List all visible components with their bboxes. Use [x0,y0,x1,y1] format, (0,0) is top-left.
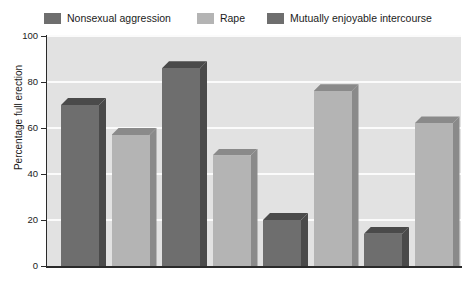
bar-series [47,36,461,266]
bar[interactable] [112,128,157,266]
legend-swatch-icon [197,13,214,24]
bar-side-face [150,128,157,266]
bar[interactable] [61,98,106,266]
bar-top-face [112,128,157,135]
bar[interactable] [415,116,460,266]
bar-side-face [251,149,258,266]
x-axis-line [46,266,462,268]
chart-figure: Nonsexual aggression Rape Mutually enjoy… [0,0,470,282]
y-tick-label: 0 [33,261,38,271]
bar[interactable] [213,149,258,266]
legend-label: Nonsexual aggression [67,13,171,24]
bar-side-face [99,98,106,266]
y-tick-label: 40 [27,169,38,179]
bar-front-face [314,91,352,266]
bar-top-face [415,116,460,123]
bar-front-face [213,156,251,266]
y-tick-mark [41,174,46,175]
y-axis-label: Percentage full erection [13,38,24,198]
bar-top-face [213,149,258,156]
bar[interactable] [364,227,409,266]
y-tick-mark [41,36,46,37]
bar[interactable] [162,61,207,266]
y-tick-mark [41,128,46,129]
y-tick-mark [41,220,46,221]
bar-front-face [364,234,402,266]
legend-item-mutually-enjoyable-intercourse[interactable]: Mutually enjoyable intercourse [267,13,432,24]
legend-label: Rape [220,13,245,24]
chart-legend: Nonsexual aggression Rape Mutually enjoy… [44,9,432,27]
legend-swatch-icon [267,13,284,24]
bar-top-face [61,98,106,105]
y-tick-label: 80 [27,77,38,87]
legend-label: Mutually enjoyable intercourse [290,13,432,24]
y-axis-line [46,35,47,267]
plot-area [47,36,461,266]
y-tick-mark [41,266,46,267]
bar-front-face [112,135,150,266]
bar-front-face [162,68,200,266]
bar[interactable] [314,84,359,266]
bar-side-face [453,116,460,266]
bar-front-face [263,220,301,266]
legend-swatch-icon [44,13,61,24]
bar-side-face [200,61,207,266]
y-tick-label: 20 [27,215,38,225]
y-tick-mark [41,82,46,83]
legend-item-nonsexual-aggression[interactable]: Nonsexual aggression [44,13,171,24]
bar-front-face [415,123,453,266]
bar-front-face [61,105,99,266]
legend-item-rape[interactable]: Rape [197,13,245,24]
y-tick-label: 60 [27,123,38,133]
bar-top-face [364,227,409,234]
bar[interactable] [263,213,308,266]
bar-top-face [162,61,207,68]
bar-side-face [352,84,359,266]
bar-side-face [301,213,308,266]
y-tick-label: 100 [22,31,38,41]
bar-top-face [314,84,359,91]
bar-top-face [263,213,308,220]
